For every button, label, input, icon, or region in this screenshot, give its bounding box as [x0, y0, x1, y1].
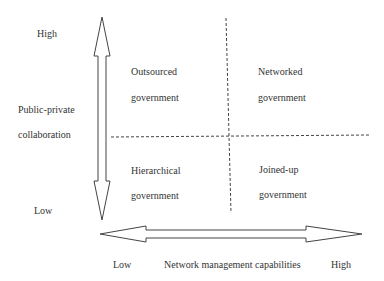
quadrant-top-left-line1: Outsourced: [131, 66, 177, 78]
x-axis-title: Network management capabilities: [164, 259, 301, 271]
x-axis-low-label: Low: [113, 259, 131, 271]
quadrant-top-left-line2: government: [131, 92, 179, 104]
y-axis-title-line2: collaboration: [18, 129, 71, 141]
quadrant-bottom-left-line2: government: [131, 190, 179, 202]
vertical-double-arrow: [94, 17, 110, 220]
x-axis-high-label: High: [331, 259, 351, 271]
quadrant-bottom-left-line1: Hierarchical: [131, 165, 180, 177]
horizontal-double-arrow: [100, 226, 362, 242]
quadrant-top-right-line1: Networked: [258, 66, 302, 78]
vertical-divider: [226, 18, 231, 213]
y-axis-title-line1: Public-private: [18, 104, 75, 116]
quadrant-bottom-right-line2: government: [259, 189, 307, 201]
y-axis-low-label: Low: [34, 205, 52, 217]
horizontal-divider: [111, 135, 370, 137]
quadrant-bottom-right-line1: Joined-up: [259, 164, 298, 176]
y-axis-high-label: High: [37, 28, 57, 40]
quadrant-top-right-line2: government: [258, 92, 306, 104]
